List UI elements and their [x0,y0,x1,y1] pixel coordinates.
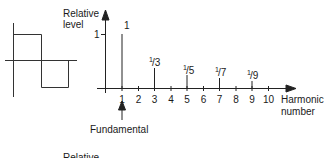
bottom-cut-label: Relative [63,152,100,158]
svg-text:2: 2 [136,94,142,105]
svg-text:6: 6 [201,94,207,105]
svg-text:8: 8 [233,94,239,105]
svg-text:4: 4 [168,94,174,105]
y-axis-arrowhead-icon [102,10,109,20]
x-axis-arrowhead-icon [286,85,296,92]
spectral-lines [122,34,252,89]
x-axis-label-line2: number [281,106,316,117]
x-axis-label-line1: Harmonic [281,94,324,105]
x-tick-labels: 1 2 3 4 5 6 7 8 9 10 [119,94,274,105]
svg-text:/9: /9 [250,70,259,81]
svg-text:/3: /3 [152,57,161,68]
y-axis-label-line2: level [63,19,84,30]
svg-text:5: 5 [184,94,190,105]
svg-text:9: 9 [249,94,255,105]
y-axis-label-line1: Relative [63,8,100,19]
fundamental-label: Fundamental [90,124,148,135]
svg-text:3: 3 [152,94,158,105]
svg-text:7: 7 [217,94,223,105]
harmonic-3-value: 1/3 [149,56,161,68]
harmonic-spectrum-diagram: Relative level 1 1 1/3 1/5 1/7 1/9 1 2 3… [0,0,328,158]
y-tick-label: 1 [94,29,100,40]
svg-text:10: 10 [263,94,275,105]
svg-text:/5: /5 [186,65,195,76]
square-wave [5,23,77,97]
harmonic-7-value: 1/7 [215,66,227,78]
harmonic-5-value: 1/5 [183,64,195,76]
harmonic-9-value: 1/9 [247,69,259,81]
svg-text:1: 1 [119,94,125,105]
harmonic-1-value: 1 [124,20,130,31]
svg-text:/7: /7 [218,67,227,78]
